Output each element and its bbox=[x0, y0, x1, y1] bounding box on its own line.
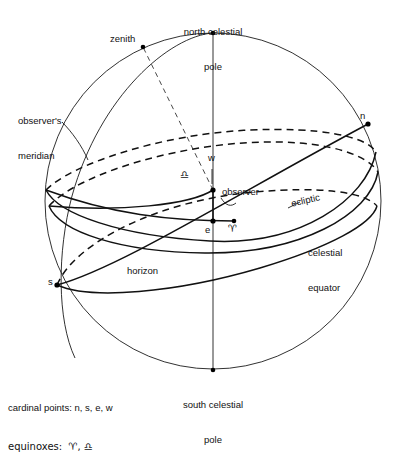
south-celestial-pole-line2: pole bbox=[163, 434, 263, 446]
legend-equinoxes: equinoxes: ♈, ♎ bbox=[8, 440, 113, 453]
south-celestial-pole-label: south celestial pole bbox=[163, 376, 263, 456]
north-celestial-pole-label: north celestial pole bbox=[163, 3, 263, 95]
north-celestial-pole-line2: pole bbox=[163, 61, 263, 73]
celestial-equator-label: celestial equator bbox=[308, 224, 342, 316]
legend-cardinal-points: cardinal points: n, s, e, w bbox=[8, 401, 113, 414]
horizon-label: horizon bbox=[127, 265, 158, 277]
observer-dot bbox=[210, 187, 215, 192]
cardinal-s-label: s bbox=[48, 276, 53, 288]
zenith-dot bbox=[141, 45, 146, 50]
cardinal-e-dot bbox=[210, 218, 215, 223]
south-celestial-pole-line1: south celestial bbox=[163, 399, 263, 411]
observers-meridian-label: observer's meridian bbox=[18, 92, 62, 184]
zenith-label: zenith bbox=[110, 33, 135, 45]
cardinal-n-dot bbox=[365, 121, 370, 126]
cardinal-e-label: e bbox=[205, 224, 210, 236]
observers-meridian-leader bbox=[62, 122, 88, 160]
libra-symbol-label: ♎ bbox=[180, 169, 189, 181]
cardinal-w-label: w bbox=[208, 152, 215, 164]
north-celestial-pole-line1: north celestial bbox=[163, 26, 263, 38]
legend: cardinal points: n, s, e, w equinoxes: ♈… bbox=[8, 375, 113, 456]
celestial-equator-line1: celestial bbox=[308, 247, 342, 259]
aries-symbol-label: ♈ bbox=[228, 223, 237, 235]
observer-label: observer bbox=[222, 186, 259, 198]
celestial-equator-line2: equator bbox=[308, 282, 342, 294]
cardinal-s-dot bbox=[54, 282, 59, 287]
cardinal-n-label: n bbox=[360, 110, 365, 122]
observers-meridian-line1: observer's bbox=[18, 115, 62, 127]
south-pole-dot bbox=[211, 368, 216, 373]
observers-meridian-line2: meridian bbox=[18, 150, 62, 162]
